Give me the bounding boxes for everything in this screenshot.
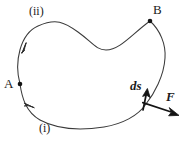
ds-vector-label: ds — [130, 79, 142, 92]
direction-arrowhead-upper-shaft-icon — [22, 43, 26, 53]
curve-upper-segment — [18, 21, 150, 84]
point-a-label: A — [4, 77, 13, 90]
point-a-marker — [18, 82, 23, 87]
figure-container: A B (i) (ii) ds F — [0, 0, 190, 142]
path-i-label: (i) — [39, 122, 50, 134]
path-ii-label: (ii) — [29, 5, 44, 17]
path-diagram-svg — [0, 0, 190, 142]
point-b-label: B — [153, 3, 162, 16]
force-vector-label: F — [166, 90, 175, 103]
point-b-marker — [148, 19, 153, 24]
curve-right-segment — [146, 21, 165, 104]
